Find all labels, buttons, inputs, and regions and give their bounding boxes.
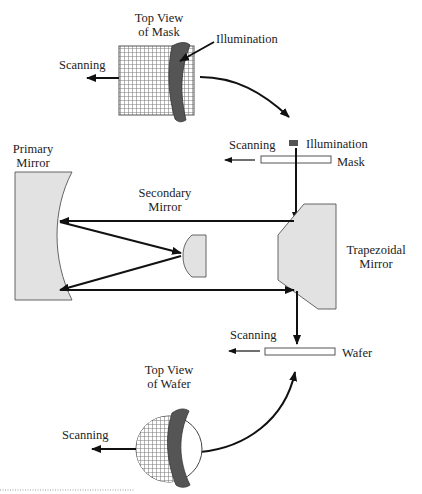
- mask-top-view-title-line1: Top View: [118, 11, 200, 25]
- primary-mirror-label-line1: Primary: [8, 142, 58, 156]
- primary-mirror: [15, 172, 72, 300]
- mask-label: Mask: [337, 155, 365, 169]
- wafer-to-top-view-curve-arrow: [200, 372, 295, 452]
- primary-mirror-label: Primary Mirror: [8, 142, 58, 170]
- mask-top-view-title: Top View of Mask: [118, 11, 200, 39]
- wafer-top-view-title: Top View of Wafer: [128, 363, 210, 391]
- illumination-source: [289, 140, 298, 146]
- secondary-mirror-label-line2: Mirror: [133, 200, 197, 214]
- wafer-top-view-title-line2: of Wafer: [128, 377, 210, 391]
- secondary-mirror: [183, 235, 206, 277]
- wafer-label: Wafer: [342, 346, 372, 360]
- mask-top-illumination-label: Illumination: [216, 32, 278, 46]
- mask-side-scanning-label: Scanning: [229, 138, 276, 152]
- mask-top-view-title-line2: of Mask: [118, 25, 200, 39]
- wafer-top-scanning-label: Scanning: [62, 428, 109, 442]
- mask-to-side-curve-arrow: [200, 77, 289, 117]
- secondary-mirror-label: Secondary Mirror: [133, 186, 197, 214]
- ray-paths: [60, 221, 297, 344]
- optical-diagram: Top View of Mask Illumination Scanning S…: [0, 0, 422, 494]
- wafer-side-view: [200, 348, 335, 452]
- trapezoidal-mirror-label-line1: Trapezoidal: [340, 243, 412, 257]
- wafer-top-view: [92, 409, 202, 487]
- primary-mirror-label-line2: Mirror: [8, 156, 58, 170]
- mask-top-view: [87, 42, 289, 122]
- wafer-side-scanning-label: Scanning: [230, 328, 277, 342]
- wafer-plate: [265, 348, 335, 355]
- trapezoidal-mirror-label-line2: Mirror: [340, 257, 412, 271]
- mask-top-scanning-label: Scanning: [59, 58, 106, 72]
- trapezoidal-mirror-label: Trapezoidal Mirror: [340, 243, 412, 271]
- mask-side-illumination-label: Illumination: [306, 137, 368, 151]
- wafer-top-view-title-line1: Top View: [128, 363, 210, 377]
- trapezoidal-mirror: [278, 204, 336, 309]
- secondary-mirror-label-line1: Secondary: [133, 186, 197, 200]
